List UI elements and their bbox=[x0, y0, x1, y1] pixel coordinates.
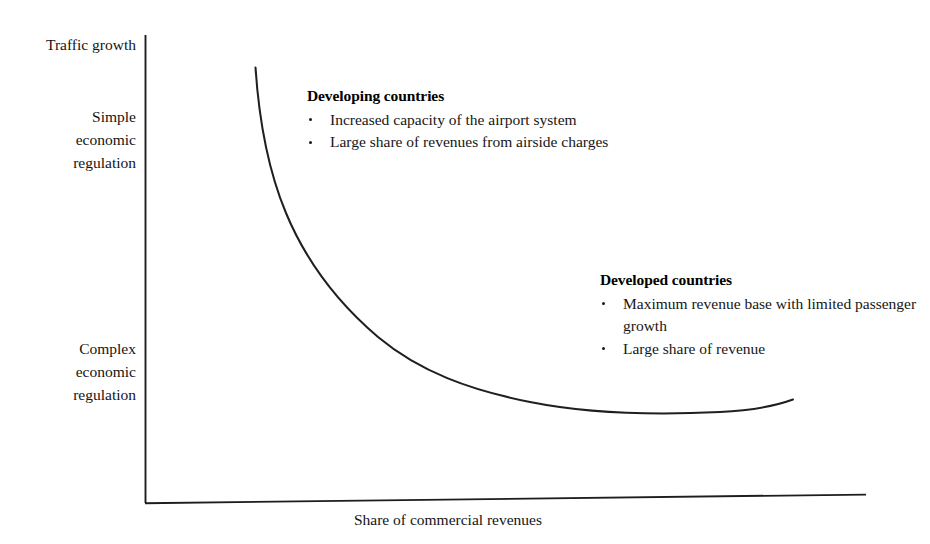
bullet-dot-icon bbox=[309, 141, 312, 144]
x-axis-label: Share of commercial revenues bbox=[0, 509, 930, 531]
annotation-developed-heading: Developed countries bbox=[600, 269, 930, 292]
annotation-developing-bullet-list: Increased capacity of the airport system… bbox=[307, 109, 707, 154]
annotation-developed-bullet-list: Maximum revenue base with limited passen… bbox=[600, 293, 930, 361]
bullet-dot-icon bbox=[602, 347, 605, 350]
schematic-chart-figure: Traffic growth Simple economic regulatio… bbox=[0, 0, 930, 544]
bullet-dot-icon bbox=[309, 118, 312, 121]
list-item-text: Maximum revenue base with limited passen… bbox=[623, 295, 916, 335]
annotation-developing-heading: Developing countries bbox=[307, 85, 707, 108]
list-item-text: Increased capacity of the airport system bbox=[330, 111, 577, 128]
list-item: Increased capacity of the airport system bbox=[307, 109, 707, 132]
list-item-text: Large share of revenues from airside cha… bbox=[330, 133, 608, 150]
list-item-text: Large share of revenue bbox=[623, 340, 765, 357]
annotation-developing-countries: Developing countries Increased capacity … bbox=[307, 85, 707, 154]
y-axis-tier-label-simple-economic-regulation: Simple economic regulation bbox=[0, 105, 136, 174]
list-item: Maximum revenue base with limited passen… bbox=[600, 293, 930, 338]
y-axis-tier-label-complex-economic-regulation: Complex economic regulation bbox=[0, 337, 136, 406]
x-axis-line bbox=[145, 495, 866, 504]
y-axis-tier-label-traffic-growth: Traffic growth bbox=[0, 33, 136, 56]
x-axis-label-text: Share of commercial revenues bbox=[354, 509, 542, 531]
list-item: Large share of revenue bbox=[600, 338, 930, 361]
bullet-dot-icon bbox=[602, 302, 605, 305]
annotation-developed-countries: Developed countries Maximum revenue base… bbox=[600, 269, 930, 360]
list-item: Large share of revenues from airside cha… bbox=[307, 131, 707, 154]
